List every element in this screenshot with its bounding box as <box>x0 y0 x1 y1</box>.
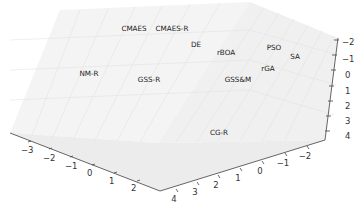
right-axis-tick-label: 2 <box>213 180 218 190</box>
right-axis-tick-label: 1 <box>235 173 240 183</box>
vertical-axis-tick-label: −1 <box>342 54 355 64</box>
right-axis-tick-label: −2 <box>299 151 312 161</box>
left-axis-tick-label: 1 <box>109 176 114 186</box>
right-axis-tick <box>307 146 309 149</box>
point-label: PSO <box>267 43 282 52</box>
right-axis-tick <box>240 168 242 171</box>
right-axis-tick <box>218 175 220 178</box>
point-label: CG-R <box>210 128 228 137</box>
left-axis-tick-label: 0 <box>87 168 92 178</box>
vertical-axis-tick-label: 2 <box>345 101 350 111</box>
right-axis-tick <box>262 161 264 164</box>
vertical-axis-tick-label: 3 <box>345 116 350 126</box>
right-axis-tick-label: 4 <box>171 194 176 204</box>
vertical-axis-tick-label: 0 <box>345 70 350 80</box>
point-label: DE <box>191 40 202 49</box>
point-label: CMAES <box>121 24 147 33</box>
right-axis-tick-label: −1 <box>277 158 290 168</box>
scatter-3d-chart: −3−2−101243210−1−2−2−101234 CMAESCMAES-R… <box>0 0 363 205</box>
left-axis-tick-label: 2 <box>131 183 136 193</box>
point-label: CMAES-R <box>156 24 189 33</box>
point-label: rBOA <box>217 48 235 57</box>
point-label: NM-R <box>79 69 98 78</box>
vertical-axis-tick-label: −2 <box>342 37 355 47</box>
right-axis-tick <box>176 189 178 192</box>
right-axis-tick-label: 3 <box>192 187 197 197</box>
left-axis-tick <box>28 141 31 142</box>
right-axis-tick-label: 0 <box>257 166 262 176</box>
vertical-axis-tick-label: 1 <box>345 86 350 96</box>
vertical-axis-tick-label: 4 <box>345 131 350 141</box>
point-label: rGA <box>261 64 275 73</box>
right-axis-tick <box>197 182 199 185</box>
point-label: GSS&M <box>225 75 252 84</box>
left-axis-tick-label: −2 <box>43 153 56 163</box>
point-label: SA <box>290 52 300 61</box>
point-label: GSS-R <box>138 75 160 84</box>
right-axis-tick <box>285 153 287 156</box>
left-axis-tick-label: −1 <box>65 161 78 171</box>
left-axis-tick-label: −3 <box>21 145 34 155</box>
